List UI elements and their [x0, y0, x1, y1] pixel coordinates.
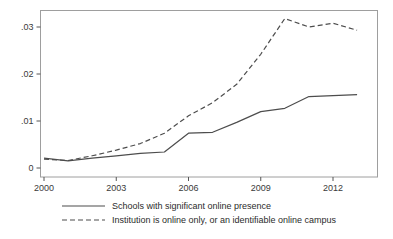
x-tick-label: 2009	[251, 183, 271, 193]
x-tick-label: 2000	[34, 183, 54, 193]
x-tick-label: 2006	[178, 183, 198, 193]
y-tick-label: .01	[21, 116, 34, 126]
y-tick-label: .02	[21, 69, 34, 79]
y-tick-label: 0	[28, 163, 33, 173]
line-chart: 0.01.02.03 20002003200620092012 Schools …	[0, 0, 393, 239]
chart-figure: 0.01.02.03 20002003200620092012 Schools …	[0, 0, 393, 239]
x-tick-label: 2012	[323, 183, 343, 193]
legend-label-1: Schools with significant online presence	[112, 201, 271, 211]
legend-label-2: Institution is online only, or an identi…	[112, 215, 336, 225]
y-tick-label: .03	[21, 22, 34, 32]
x-tick-label: 2003	[106, 183, 126, 193]
